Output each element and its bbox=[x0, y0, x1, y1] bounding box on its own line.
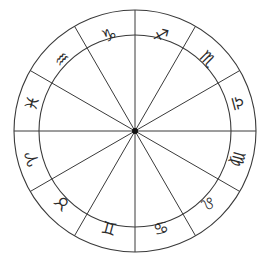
wheel-center-hub bbox=[132, 128, 138, 134]
zodiac-wheel-svg: ♐♏♎♍♌♋♊♉♈♓♒♑ bbox=[0, 0, 268, 261]
zodiac-wheel-chart: ♐♏♎♍♌♋♊♉♈♓♒♑ bbox=[0, 0, 268, 261]
